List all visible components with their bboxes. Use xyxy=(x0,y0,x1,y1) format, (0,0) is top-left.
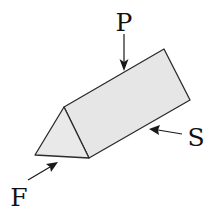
arrow-p: P xyxy=(116,8,133,71)
arrow-f-head-icon xyxy=(46,162,58,172)
label-s: S xyxy=(187,123,204,152)
arrow-s: S xyxy=(149,123,205,152)
arrow-f: F xyxy=(10,162,58,212)
prism-long-face xyxy=(64,49,190,158)
label-p: P xyxy=(116,8,133,37)
prism-diagram: P S F xyxy=(0,0,219,217)
label-f: F xyxy=(10,183,27,212)
triangular-prism xyxy=(35,49,190,158)
